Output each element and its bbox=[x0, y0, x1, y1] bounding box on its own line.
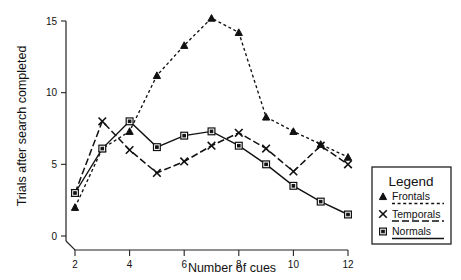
data-point-marker bbox=[290, 168, 298, 176]
data-point-marker bbox=[345, 211, 352, 218]
x-tick-label: 4 bbox=[127, 259, 133, 270]
y-tick-label: 0 bbox=[51, 231, 57, 242]
y-axis-ticks: 051015 bbox=[46, 16, 66, 242]
data-point-marker bbox=[181, 132, 188, 139]
data-point-marker bbox=[99, 118, 107, 126]
data-point-marker bbox=[72, 190, 79, 197]
x-tick-label: 12 bbox=[342, 259, 354, 270]
data-point-marker bbox=[380, 228, 387, 235]
legend-title: Legend bbox=[388, 174, 433, 189]
chart-figure: 24681012 051015 Number of cues Trials af… bbox=[0, 0, 461, 280]
x-axis-line bbox=[66, 241, 348, 250]
x-axis-title: Number of cues bbox=[188, 261, 276, 275]
data-point-marker bbox=[208, 128, 215, 135]
data-point-marker bbox=[235, 142, 242, 149]
y-axis-title: Trials after search completed bbox=[15, 46, 29, 207]
data-point-marker bbox=[154, 144, 161, 151]
line-chart: 24681012 051015 Number of cues Trials af… bbox=[0, 0, 461, 280]
data-point-marker bbox=[153, 169, 161, 177]
data-point-marker bbox=[208, 142, 216, 150]
data-point-marker bbox=[290, 182, 297, 189]
data-point-marker bbox=[235, 129, 243, 137]
chart-legend: Legend FrontalsTemporalsNormals bbox=[372, 167, 451, 244]
series-frontals bbox=[71, 15, 351, 211]
legend-entry-label: Temporals bbox=[392, 208, 440, 220]
x-tick-label: 6 bbox=[181, 259, 187, 270]
data-point-marker bbox=[126, 146, 134, 154]
x-tick-label: 2 bbox=[72, 259, 78, 270]
data-point-marker bbox=[235, 29, 242, 36]
data-point-marker bbox=[344, 161, 352, 169]
legend-entry-label: Normals bbox=[392, 225, 431, 237]
y-tick-label: 5 bbox=[51, 159, 57, 170]
data-point-marker bbox=[126, 128, 133, 135]
data-point-marker bbox=[263, 113, 270, 120]
y-tick-label: 10 bbox=[46, 87, 58, 98]
data-point-marker bbox=[317, 198, 324, 205]
data-point-marker bbox=[99, 145, 106, 152]
x-tick-label: 10 bbox=[288, 259, 300, 270]
series-line bbox=[75, 18, 348, 207]
data-point-marker bbox=[180, 158, 188, 166]
legend-entry-label: Frontals bbox=[392, 190, 430, 202]
chart-axes bbox=[66, 21, 348, 250]
data-point-marker bbox=[208, 15, 215, 22]
chart-series bbox=[71, 15, 352, 218]
data-point-marker bbox=[126, 118, 133, 125]
data-point-marker bbox=[344, 154, 351, 161]
y-tick-label: 15 bbox=[46, 16, 58, 27]
data-point-marker bbox=[263, 161, 270, 168]
data-point-marker bbox=[262, 145, 270, 153]
data-point-marker bbox=[290, 128, 297, 135]
data-point-marker bbox=[71, 204, 78, 211]
